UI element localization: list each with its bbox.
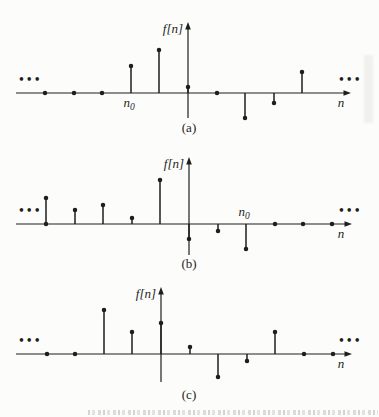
- y-axis-arrow-icon: [158, 287, 164, 295]
- y-axis-label: f[n]: [163, 21, 183, 36]
- x-axis-arrow-icon: [344, 90, 352, 96]
- stem-panel-c: f[n]n••••••(c): [16, 286, 362, 402]
- y-axis-label: f[n]: [136, 286, 156, 301]
- sample-dot: [157, 48, 162, 53]
- sample-dot: [73, 208, 78, 213]
- sample-dot: [215, 91, 220, 96]
- ellipsis-right: •••: [338, 335, 362, 346]
- sample-dot: [73, 352, 78, 357]
- panel-label: (a): [182, 120, 196, 135]
- y-axis-arrow-icon: [185, 22, 191, 30]
- sample-dot: [159, 321, 164, 326]
- ellipsis-right: •••: [338, 74, 362, 85]
- sample-dot: [216, 229, 221, 234]
- scanned-figure-page: f[n]n••••••n0(a)f[n]n••••••n0(b)f[n]n•••…: [0, 0, 379, 417]
- sample-dot: [102, 308, 107, 313]
- sample-dot: [43, 91, 48, 96]
- sample-dot: [44, 196, 49, 201]
- sample-dot: [244, 247, 249, 252]
- sample-dot: [45, 352, 50, 357]
- ellipsis-left: •••: [18, 335, 42, 346]
- x-axis-label: n: [338, 226, 345, 241]
- x-axis-label: n: [338, 95, 345, 110]
- sample-dot: [302, 352, 307, 357]
- sample-dot: [188, 345, 193, 350]
- sample-dot: [72, 91, 77, 96]
- stem-figure: f[n]n••••••n0(a)f[n]n••••••n0(b)f[n]n•••…: [0, 0, 379, 417]
- sample-dot: [273, 330, 278, 335]
- n0-marker-label: n0: [123, 95, 135, 112]
- panel-label: (c): [182, 387, 196, 402]
- sample-dot: [301, 222, 306, 227]
- x-axis-arrow-icon: [345, 221, 353, 227]
- x-axis-arrow-icon: [345, 351, 353, 357]
- sample-dot: [243, 116, 248, 121]
- sample-dot: [186, 85, 191, 90]
- y-axis-label: f[n]: [164, 156, 184, 171]
- n0-marker-label: n0: [238, 204, 250, 221]
- sample-dot: [100, 91, 105, 96]
- cropped-caption-remnant: [88, 410, 378, 415]
- sample-dot: [273, 222, 278, 227]
- y-axis-arrow-icon: [186, 157, 192, 165]
- ellipsis-left: •••: [18, 205, 42, 216]
- sample-dot: [130, 216, 135, 221]
- sample-dot: [272, 101, 277, 106]
- scan-edge-artifact: [364, 55, 373, 123]
- sample-dot: [158, 178, 163, 183]
- stem-panel-a: f[n]n••••••n0(a): [16, 21, 362, 135]
- sample-dot: [216, 375, 221, 380]
- panel-label: (b): [181, 256, 196, 271]
- ellipsis-left: •••: [18, 74, 42, 85]
- sample-dot: [300, 70, 305, 75]
- sample-dot: [101, 203, 106, 208]
- sample-dot: [330, 222, 335, 227]
- sample-dot: [331, 352, 336, 357]
- sample-dot: [129, 64, 134, 69]
- sample-dot: [130, 330, 135, 335]
- x-axis-label: n: [338, 356, 345, 371]
- sample-dot: [187, 237, 192, 242]
- ellipsis-right: •••: [338, 205, 362, 216]
- stem-panel-b: f[n]n••••••n0(b): [16, 156, 362, 271]
- sample-base-dot: [44, 222, 49, 227]
- sample-dot: [245, 359, 250, 364]
